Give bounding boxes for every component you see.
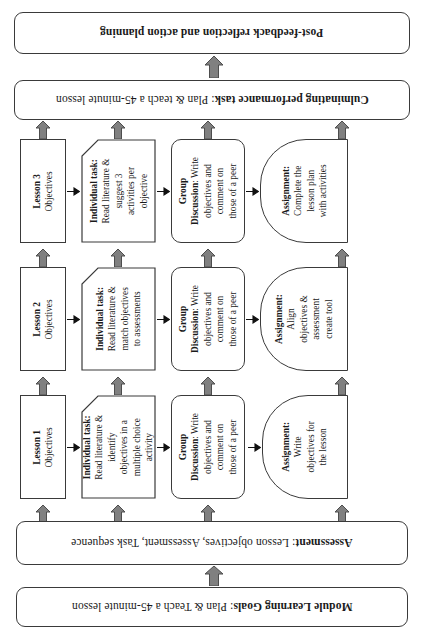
bar-assessment-bold: Assessment <box>296 537 353 549</box>
lesson-2-group-title-b: Discussion <box>190 311 200 353</box>
bar-culminating-bold: Culminating performance task <box>214 94 368 106</box>
lesson-3-assignment-text: Assignment: Complete the lesson plan wit… <box>279 165 329 218</box>
lesson-2-group-line-1: objectives and <box>202 285 214 353</box>
lesson-1-title: Lesson 1 <box>32 430 42 465</box>
arrow-lesson2-up <box>35 249 51 267</box>
lesson-2-line-0: Objectives <box>43 299 55 339</box>
lesson-2-assignment-title: Assignment: <box>274 294 284 344</box>
bar-module-learning-goals-text: Module Learning Goals: Plan & Teach a 45… <box>72 601 352 613</box>
lesson-3-objectives-text: Lesson 3 Objectives <box>31 171 56 211</box>
lesson-1-individual-task-box: Individual task: Read literature & ident… <box>81 395 156 499</box>
lesson-2-individual-task-box: Individual task: Read literature & match… <box>81 267 156 371</box>
lesson-1-group-discussion-text: Group Discussion: Write objectives and c… <box>177 413 239 481</box>
arrow-lesson3-group-up <box>200 121 216 139</box>
lesson-2-individual-line-0: Read literature & <box>106 286 118 351</box>
bar-culminating-task: Culminating performance task: Plan & tea… <box>14 80 410 120</box>
lesson-3-individual-task-box: Individual task: Read literature & sugge… <box>81 139 156 243</box>
bar-post-feedback: Post-feedback reflection and action plan… <box>14 12 410 54</box>
lesson-2-assignment-text: Assignment: Align objectives & assessmen… <box>273 294 335 344</box>
arrow-group-to-assignment-lesson2 <box>246 315 259 324</box>
lesson-1-assignment-line-2: the lesson <box>317 421 329 472</box>
lesson-1-assignment-title: Assignment: <box>281 422 291 472</box>
arrow-lesson1-group-up <box>200 377 216 395</box>
lesson-3-individual-line-2: activities per <box>125 158 137 223</box>
lesson-2-assignment-line-3: create tool <box>323 294 335 344</box>
lesson-3-group-line-0: : Write <box>190 157 200 183</box>
lesson-3-individual-title: Individual task: <box>88 159 98 223</box>
arrow-group-to-assignment-lesson1 <box>248 443 261 452</box>
lesson-3-group-discussion-text: Group Discussion: Write objectives and c… <box>177 157 239 225</box>
arrow-lesson2-to-individual <box>67 315 80 324</box>
lesson-3-group-line-3: those of a peer <box>227 157 239 225</box>
lesson-1-group-title-b: Discussion <box>190 439 200 481</box>
lesson-3-group-title-b: Discussion <box>190 183 200 225</box>
arrow-lesson2-group-up <box>200 249 216 267</box>
lesson-3-assignment-line-0: Complete the <box>292 165 304 218</box>
flowchart-canvas: Post-feedback reflection and action plan… <box>0 0 424 635</box>
lesson-1-individual-line-3: multiple choice <box>131 414 143 479</box>
lesson-1-group-line-1: objectives and <box>202 413 214 481</box>
lesson-1-assignment-box: Assignment: Write objectives for the les… <box>262 395 348 499</box>
lesson-1-assignment-line-1: objectives for <box>305 421 317 472</box>
lesson-2-assignment-line-1: objectives & <box>298 294 310 344</box>
lesson-2-group-line-0: : Write <box>190 285 200 311</box>
lesson-2-group-discussion-box: Group Discussion: Write objectives and c… <box>171 267 245 371</box>
lesson-1-individual-title: Individual task: <box>82 415 92 479</box>
lesson-1-assignment-line-0: Write <box>293 421 305 472</box>
lesson-3-title: Lesson 3 <box>32 174 42 209</box>
arrow-lesson3-individual-up <box>110 121 126 139</box>
lesson-2-assignment-line-2: assessment <box>310 294 322 344</box>
arrow-group-to-assignment-lesson3 <box>246 187 259 196</box>
lesson-1-individual-line-2: objectives in a <box>118 414 130 479</box>
lesson-1-objectives-box: Lesson 1 Objectives <box>20 395 66 499</box>
lesson-3-assignment-box: Assignment: Complete the lesson plan wit… <box>260 139 348 243</box>
lesson-1-individual-task-text: Individual task: Read literature & ident… <box>81 414 155 479</box>
bar-module-learning-goals: Module Learning Goals: Plan & Teach a 45… <box>16 587 408 627</box>
lesson-1-individual-line-4: activity <box>143 414 155 479</box>
arrow-lesson3-up <box>35 121 51 139</box>
arrow-lesson2-assignment-up <box>334 249 350 267</box>
bar-assessment-plain: : Lesson objectives, Assessment, Task se… <box>71 537 295 549</box>
lesson-1-objectives-text: Lesson 1 Objectives <box>31 427 56 467</box>
lesson-3-group-line-2: comment on <box>214 157 226 225</box>
lesson-2-title: Lesson 2 <box>32 302 42 337</box>
lesson-2-objectives-text: Lesson 2 Objectives <box>31 299 56 339</box>
bar-assessment-text: Assessment: Lesson objectives, Assessmen… <box>71 537 353 549</box>
lesson-2-assignment-line-0: Align <box>285 294 297 344</box>
lesson-2-individual-line-1: match objectives <box>118 286 130 351</box>
lesson-3-objectives-box: Lesson 3 Objectives <box>20 139 66 243</box>
arrow-lesson3-to-individual <box>67 187 80 196</box>
lesson-1-individual-line-1: identify <box>106 414 118 479</box>
lesson-2-group-discussion-text: Group Discussion: Write objectives and c… <box>177 285 239 353</box>
lesson-2-group-line-3: those of a peer <box>227 285 239 353</box>
lesson-1-group-discussion-box: Group Discussion: Write objectives and c… <box>171 395 245 499</box>
lesson-2-individual-task-text: Individual task: Read literature & match… <box>94 286 144 351</box>
lesson-1-group-line-0: : Write <box>190 413 200 439</box>
arrow-lesson1-up <box>35 377 51 395</box>
lesson-2-objectives-box: Lesson 2 Objectives <box>20 267 66 371</box>
arrow-individual-to-group-lesson2 <box>157 315 170 324</box>
lesson-3-assignment-line-2: with activities <box>316 165 328 218</box>
lesson-1-group-line-2: comment on <box>214 413 226 481</box>
arrow-module-to-assessment <box>204 566 224 586</box>
bar-module-plain: : Plan & Teach a 45-minute lesson <box>72 601 233 613</box>
arrow-individual-to-group-lesson1 <box>157 443 170 452</box>
arrow-lesson3-assignment-up <box>334 121 350 139</box>
arrow-lesson1-to-individual <box>67 443 80 452</box>
lesson-1-line-0: Objectives <box>43 427 55 467</box>
lesson-3-individual-line-3: objective <box>137 158 149 223</box>
arrow-individual-to-group-lesson3 <box>157 187 170 196</box>
lesson-1-individual-line-0: Read literature & <box>94 414 106 479</box>
lesson-1-assignment-text: Assignment: Write objectives for the les… <box>280 421 330 472</box>
lesson-3-group-discussion-box: Group Discussion: Write objectives and c… <box>171 139 245 243</box>
arrow-culminating-to-postfeedback <box>204 56 224 78</box>
lesson-3-line-0: Objectives <box>43 171 55 211</box>
lesson-2-individual-title: Individual task: <box>95 287 105 351</box>
lesson-3-individual-task-text: Individual task: Read literature & sugge… <box>87 158 149 223</box>
bar-post-feedback-bold: Post-feedback reflection and action plan… <box>100 27 323 39</box>
bar-assessment: Assessment: Lesson objectives, Assessmen… <box>16 521 408 565</box>
lesson-2-individual-line-2: to assessments <box>131 286 143 351</box>
arrow-lesson2-individual-up <box>110 249 126 267</box>
lesson-3-group-line-1: objectives and <box>202 157 214 225</box>
arrow-lesson1-assignment-up <box>334 377 350 395</box>
